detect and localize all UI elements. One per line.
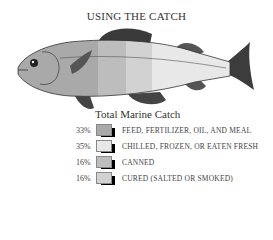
legend: 33% FEED, FERTILIZER, OIL, AND MEAL 35% … <box>76 122 258 186</box>
legend-swatch <box>96 140 116 153</box>
legend-percent: 33% <box>76 126 96 135</box>
legend-label: CURED (SALTED OR SMOKED) <box>122 174 233 183</box>
legend-row-cured: 16% CURED (SALTED OR SMOKED) <box>76 170 258 186</box>
legend-row-canned: 16% CANNED <box>76 154 258 170</box>
legend-row-fresh: 35% CHILLED, FROZEN, OR EATEN FRESH <box>76 138 258 154</box>
legend-percent: 16% <box>76 174 96 183</box>
legend-label: FEED, FERTILIZER, OIL, AND MEAL <box>122 126 251 135</box>
legend-title: Total Marine Catch <box>95 108 180 120</box>
eye-icon <box>30 59 38 67</box>
legend-label: CANNED <box>122 158 154 167</box>
legend-percent: 35% <box>76 142 96 151</box>
legend-label: CHILLED, FROZEN, OR EATEN FRESH <box>122 142 258 151</box>
legend-row-feed: 33% FEED, FERTILIZER, OIL, AND MEAL <box>76 122 258 138</box>
legend-swatch <box>96 156 116 169</box>
legend-percent: 16% <box>76 158 96 167</box>
legend-swatch <box>96 172 116 185</box>
legend-swatch <box>96 124 116 137</box>
